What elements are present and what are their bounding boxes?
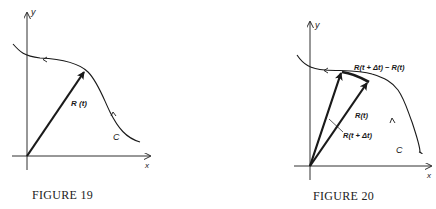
figures-canvas: y x R (t) C FIGURE 19 y x R(t + Δt) − bbox=[0, 0, 436, 209]
vector-label-r-t-plus-dt: R(t + Δt) bbox=[343, 131, 372, 140]
y-axis-label: y bbox=[314, 20, 320, 30]
position-vector-r-t-plus-dt bbox=[310, 73, 341, 166]
vector-label-r-t: R(t) bbox=[355, 111, 368, 120]
figure-caption: FIGURE 20 bbox=[313, 189, 374, 203]
curve-direction-arrow-icon bbox=[390, 118, 395, 123]
x-axis-label: x bbox=[144, 161, 150, 170]
curve-label-c: C bbox=[113, 132, 120, 142]
difference-label-text: R(t + Δt) − R(t) bbox=[354, 63, 405, 72]
x-axis-label: x bbox=[426, 171, 432, 180]
curve-direction-arrow-icon bbox=[111, 112, 116, 116]
curve-label-c: C bbox=[396, 145, 403, 155]
vector-label-r-t: R (t) bbox=[71, 99, 87, 108]
y-axis-label: y bbox=[30, 7, 36, 17]
position-vector-r-t bbox=[27, 72, 84, 156]
curve-c bbox=[13, 44, 140, 142]
difference-label: R(t + Δt) − R(t) bbox=[354, 63, 405, 72]
figure-19: y x R (t) C FIGURE 19 bbox=[12, 7, 150, 202]
position-vector-r-t bbox=[310, 83, 367, 166]
figure-caption: FIGURE 19 bbox=[32, 188, 93, 202]
figure-20: y x R(t + Δt) − R(t) R(t) R(t + Δt) C FI… bbox=[294, 20, 432, 203]
difference-vector bbox=[342, 72, 369, 82]
